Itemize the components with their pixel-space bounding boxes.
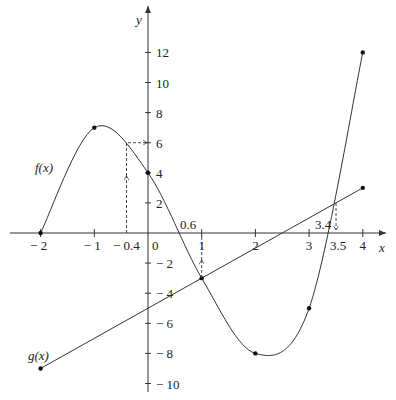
function-graph: x y − 2− 11234 12108642− 2− 4− 6− 8− 10 … bbox=[0, 0, 396, 400]
y-tick-label: − 10 bbox=[156, 377, 180, 392]
g-label: g(x) bbox=[28, 348, 49, 363]
origin-label: 0 bbox=[152, 238, 159, 253]
f-label: f(x) bbox=[35, 160, 53, 175]
g-point bbox=[38, 366, 42, 370]
x-tick-label: 4 bbox=[360, 238, 367, 253]
x-axis-label: x bbox=[378, 240, 385, 255]
x-tick-label: − 1 bbox=[84, 238, 101, 253]
f-point bbox=[253, 351, 257, 355]
x-tick-label: 1 bbox=[198, 238, 205, 253]
f-point bbox=[92, 125, 96, 129]
data-points bbox=[38, 50, 365, 370]
y-tick-label: 8 bbox=[156, 106, 163, 121]
y-tick-label: − 2 bbox=[156, 256, 173, 271]
x-tick-label: 2 bbox=[252, 238, 259, 253]
f-point bbox=[361, 50, 365, 54]
y-tick-label: 2 bbox=[156, 196, 163, 211]
y-tick-label: 12 bbox=[156, 45, 169, 60]
y-tick-label: − 8 bbox=[156, 346, 173, 361]
y-tick-label: − 6 bbox=[156, 316, 174, 331]
y-tick-label: 6 bbox=[156, 136, 163, 151]
annotation-label-35: 3.5 bbox=[330, 238, 346, 253]
y-tick-label: 4 bbox=[156, 166, 163, 181]
f-point bbox=[38, 231, 42, 235]
f-point bbox=[307, 306, 311, 310]
g-point bbox=[361, 186, 365, 190]
f-point bbox=[146, 171, 150, 175]
x-tick-label: − 2 bbox=[30, 238, 47, 253]
x-tick-label: 3 bbox=[306, 238, 313, 253]
annotation-label-06: 0.6 bbox=[180, 217, 197, 232]
y-axis-label: y bbox=[134, 12, 142, 27]
y-ticks: 12108642− 2− 4− 6− 8− 10 bbox=[145, 45, 180, 391]
f-curve bbox=[41, 52, 363, 355]
annotation-label-m04: − 0.4 bbox=[113, 238, 140, 253]
y-tick-label: 10 bbox=[156, 76, 169, 91]
annotation-label-34: 3.4 bbox=[315, 217, 332, 232]
